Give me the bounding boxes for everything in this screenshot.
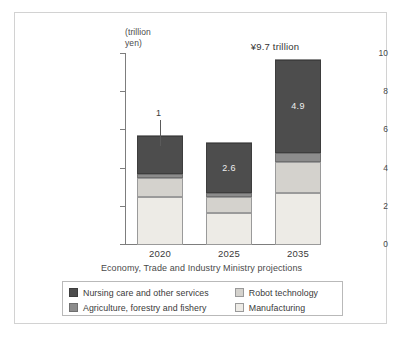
bar-2035-segment-agriculture (275, 153, 321, 162)
legend-swatch-agriculture-icon (69, 303, 78, 312)
y-tick-0 (120, 244, 126, 245)
legend-label-nursing: Nursing care and other services (83, 288, 209, 298)
chart-legend: Nursing care and other services Robot te… (62, 281, 343, 316)
x-tick-label-2020: 2020 (125, 248, 195, 259)
bar-2020 (137, 135, 183, 244)
bar-2035-nursing-value: 4.9 (276, 101, 320, 111)
legend-label-robot: Robot technology (249, 288, 318, 298)
bar-2035: 4.9 (275, 59, 321, 244)
y-tick-2 (120, 206, 126, 207)
y-tick-6 (120, 129, 126, 130)
bar-2025-segment-robot (206, 197, 252, 213)
bar-2025-nursing-value: 2.6 (207, 163, 251, 173)
x-tick-label-2035: 2035 (263, 248, 333, 259)
bar-2035-segment-manufacturing (275, 193, 321, 245)
bar-2035-total-label: ¥9.7 trillion (215, 41, 335, 52)
bar-2035-segment-nursing: 4.9 (275, 60, 321, 154)
legend-swatch-robot-icon (235, 288, 244, 297)
bar-2025: 2.6 (206, 142, 252, 245)
bar-2020-nursing-value: 1 (156, 108, 161, 118)
bar-2020-segment-manufacturing (137, 197, 183, 245)
y-tick-10 (120, 53, 126, 54)
bar-2020-nursing-leader-line (160, 120, 161, 146)
legend-item-robot: Robot technology (235, 288, 336, 298)
legend-item-manufacturing: Manufacturing (235, 303, 336, 313)
chart-frame: (trillion yen) 10 8 6 4 2 0 1 (14, 12, 387, 324)
y-axis-unit-line2: yen) (125, 38, 142, 49)
chart-source-caption: Economy, Trade and Industry Ministry pro… (15, 263, 388, 273)
legend-item-nursing: Nursing care and other services (69, 288, 235, 298)
x-tick-label-2025: 2025 (194, 248, 264, 259)
y-tick-8 (120, 91, 126, 92)
legend-swatch-nursing-icon (69, 288, 78, 297)
legend-swatch-manufacturing-icon (235, 303, 244, 312)
bar-2025-segment-nursing: 2.6 (206, 143, 252, 194)
legend-row-2: Agriculture, forestry and fishery Manufa… (69, 301, 336, 314)
y-axis-unit-line1: (trillion (125, 27, 151, 38)
legend-row-1: Nursing care and other services Robot te… (69, 286, 336, 299)
bar-2035-segment-robot (275, 162, 321, 194)
plot-area: (trillion yen) 10 8 6 4 2 0 1 (15, 13, 388, 325)
y-tick-4 (120, 168, 126, 169)
bar-2025-segment-manufacturing (206, 213, 252, 245)
legend-label-agriculture: Agriculture, forestry and fishery (83, 303, 206, 313)
legend-label-manufacturing: Manufacturing (249, 303, 305, 313)
y-axis-line (125, 53, 126, 244)
bar-2020-segment-robot (137, 178, 183, 197)
legend-item-agriculture: Agriculture, forestry and fishery (69, 303, 235, 313)
